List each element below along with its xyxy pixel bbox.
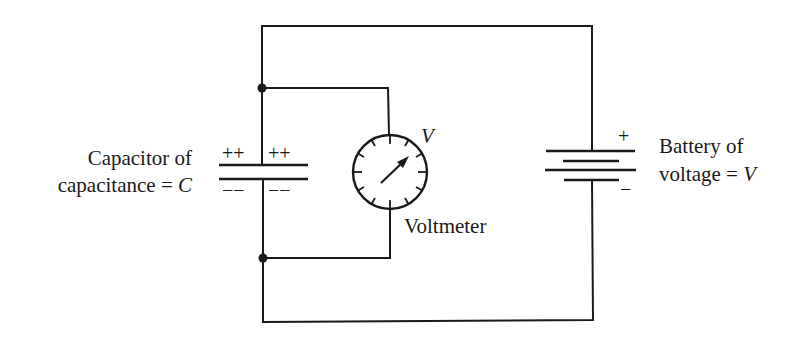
capacitor-minus-left: −− [222, 179, 245, 201]
capacitor-plus-right: ++ [268, 142, 291, 164]
capacitor-symbol: C [178, 173, 193, 197]
capacitor-label-prefix: capacitance = [58, 173, 178, 197]
voltmeter-icon [353, 135, 427, 209]
voltmeter-branch: V Voltmeter [262, 88, 486, 258]
capacitor-plus-left: ++ [222, 142, 245, 164]
battery-label-line1: Battery of [659, 134, 744, 158]
voltmeter-label: Voltmeter [404, 214, 486, 238]
capacitor-minus-right: −− [268, 179, 291, 201]
battery-label-prefix: voltage = [659, 162, 743, 186]
capacitor-label-line2: capacitance = C [58, 173, 193, 197]
battery-label-line2: voltage = V [659, 162, 758, 186]
capacitor-branch: ++ ++ −− −− [219, 88, 308, 258]
circuit-diagram: ++ ++ −− −− V Voltmeter + − Capacitor of… [0, 0, 807, 346]
battery-minus-sign: − [620, 178, 631, 200]
outer-wire-bottom [263, 180, 593, 322]
battery-icon: + − [545, 125, 636, 200]
battery-symbol: V [743, 162, 758, 186]
voltmeter-symbol: V [421, 124, 436, 148]
voltmeter-wire-top [262, 88, 389, 135]
capacitor-label-line1: Capacitor of [88, 146, 192, 170]
battery-plus-sign: + [618, 125, 629, 147]
voltmeter-wire-bottom [263, 209, 390, 258]
